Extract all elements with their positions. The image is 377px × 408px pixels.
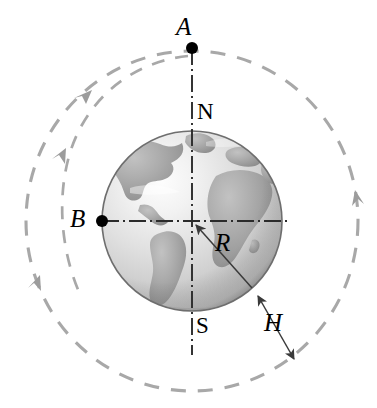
figure-canvas <box>0 0 377 408</box>
label-altitude-h: H <box>264 310 282 335</box>
label-point-a: A <box>176 14 191 39</box>
orbit-arrow-upper-left-icon <box>74 90 92 104</box>
orbit-arrow-left-icon <box>52 148 66 164</box>
label-south-pole: S <box>196 314 209 337</box>
label-radius-r: R <box>215 230 230 255</box>
point-a-marker <box>186 42 198 54</box>
earth-globe <box>102 131 284 317</box>
orbit-diagram-figure: A B R H N S <box>0 0 377 408</box>
point-b-marker <box>96 215 108 227</box>
label-north-pole: N <box>197 100 214 123</box>
label-point-b: B <box>70 206 85 231</box>
